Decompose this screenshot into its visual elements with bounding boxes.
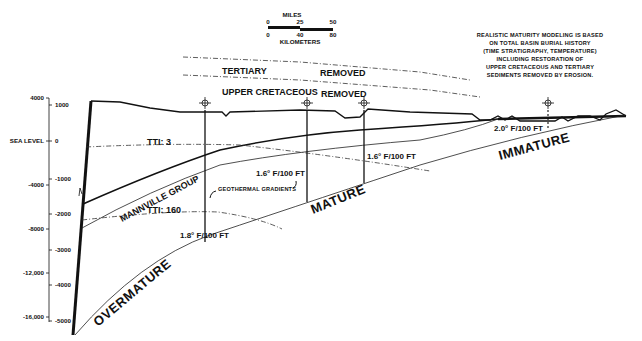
- svg-text:-4000: -4000: [55, 281, 71, 288]
- gradient-label-well-4: 2.0° F/100 FT: [494, 124, 543, 133]
- svg-text:-4000: -4000: [28, 181, 44, 188]
- scale-bar-segment: [300, 28, 333, 31]
- svg-text:-8000: -8000: [28, 225, 44, 232]
- svg-text:0: 0: [266, 18, 270, 25]
- well-2: [301, 97, 313, 202]
- svg-text:80: 80: [330, 31, 337, 38]
- tertiary-label: TERTIARY: [222, 66, 267, 76]
- svg-text:25: 25: [297, 18, 304, 25]
- svg-text:0: 0: [266, 31, 270, 38]
- basin-boundary-fault: [73, 101, 91, 335]
- svg-text:-5000: -5000: [55, 317, 71, 324]
- basin-cross-section-diagram: MILES 0 25 50 0 40 80 KILOMETERS REALIST…: [0, 0, 642, 341]
- svg-text:1000: 1000: [55, 101, 69, 108]
- tti-160-line: [82, 212, 282, 229]
- km-label: KILOMETERS: [280, 38, 321, 45]
- svg-text:50: 50: [330, 18, 337, 25]
- well-3: [358, 97, 370, 183]
- feet-label: 4000: [30, 94, 44, 101]
- svg-text:UPPER CRETACEOUS AND TERTIARY: UPPER CRETACEOUS AND TERTIARY: [486, 64, 594, 70]
- mannville-group-label: MANNVILLE GROUP: [118, 174, 200, 224]
- svg-text:(TIME STRATIGRAPHY, TEMPERATU: (TIME STRATIGRAPHY, TEMPERATURE): [483, 48, 596, 54]
- svg-text:-2000: -2000: [55, 210, 71, 217]
- depth-axis: 4000 SEA LEVEL -4000 -8000 -12,000 -16,0…: [10, 94, 72, 324]
- svg-text:-12,000: -12,000: [23, 269, 45, 276]
- svg-text:ON TOTAL BASIN BURIAL HISTORY: ON TOTAL BASIN BURIAL HISTORY: [489, 40, 590, 46]
- miles-label: MILES: [283, 11, 302, 18]
- svg-text:INCLUDING RESTORATION OF: INCLUDING RESTORATION OF: [497, 56, 584, 62]
- well-4: [542, 97, 554, 130]
- scale-bar-segment: [268, 26, 300, 29]
- scale-bar: MILES 0 25 50 0 40 80 KILOMETERS: [266, 11, 337, 45]
- explanatory-note: REALISTIC MATURITY MODELING IS BASED ON …: [477, 32, 603, 78]
- svg-text:0: 0: [55, 137, 59, 144]
- well-1: [199, 97, 211, 242]
- mature-label: MATURE: [309, 181, 368, 217]
- tertiary-removed-label: REMOVED: [320, 68, 366, 78]
- svg-text:-16,000: -16,000: [23, 313, 45, 320]
- fault-arrow-icon: [79, 188, 82, 196]
- svg-text:SEDIMENTS REMOVED BY EROSION.: SEDIMENTS REMOVED BY EROSION.: [487, 72, 594, 78]
- overmature-label: OVERMATURE: [90, 256, 174, 330]
- uc-removed-label: REMOVED: [321, 89, 367, 99]
- sea-level-label: SEA LEVEL: [10, 137, 44, 144]
- gradient-label-well-1: 1.8° F/100 FT: [180, 231, 229, 240]
- geothermal-gradients-label: GEOTHERMAL GRADIENTS: [218, 186, 296, 192]
- gradient-label-well-3: 1.6° F/100 FT: [367, 152, 416, 161]
- tti-160-label: TTI: 160: [147, 205, 181, 215]
- svg-text:-3000: -3000: [55, 246, 71, 253]
- tti-3-label: TTI: 3: [147, 137, 171, 147]
- svg-text:REALISTIC MATURITY MODELING IS: REALISTIC MATURITY MODELING IS BASED: [477, 32, 603, 38]
- gradient-label-well-2: 1.6° F/100 FT: [256, 169, 305, 178]
- svg-text:40: 40: [297, 31, 304, 38]
- svg-text:-1000: -1000: [55, 175, 71, 182]
- upper-cretaceous-label: UPPER CRETACEOUS: [222, 87, 318, 97]
- arrow-icon: [210, 191, 216, 198]
